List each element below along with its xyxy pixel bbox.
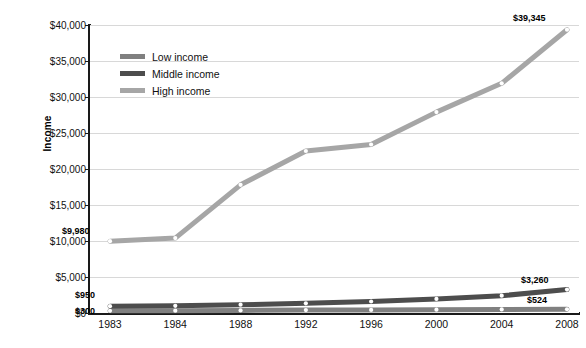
y-axis-tick-mark (85, 25, 90, 26)
point-value-label: $39,345 (513, 13, 546, 23)
y-axis-tick-mark (85, 277, 90, 278)
y-axis-tick-mark (85, 61, 90, 62)
legend-item-label: Middle income (152, 68, 220, 80)
y-axis-tick-mark (85, 133, 90, 134)
gridline (90, 205, 579, 206)
y-axis-tick-mark (85, 241, 90, 242)
legend-swatch-icon (120, 54, 145, 59)
point-value-label: $3,260 (521, 275, 549, 285)
legend-item-label: High income (152, 85, 210, 97)
point-value-label: $950 (75, 290, 95, 300)
legend-swatch-icon (120, 88, 145, 93)
chart-legend: Low incomeMiddle incomeHigh income (120, 49, 250, 100)
x-axis-tick-label: 2004 (472, 318, 532, 330)
x-axis-tick-label: 1988 (211, 318, 271, 330)
x-axis-tick-label: 1984 (145, 318, 205, 330)
y-axis-tick-label: $15,000 (24, 200, 86, 211)
x-axis-tick-label: 2000 (406, 318, 466, 330)
y-axis-tick-label: $10,000 (24, 236, 86, 247)
point-value-label: $524 (527, 295, 547, 305)
income-line-chart: Income $0$5,000$10,000$15,000$20,000$25,… (0, 0, 586, 348)
y-axis-tick-label: $40,000 (24, 20, 86, 31)
y-axis-tick-mark (85, 97, 90, 98)
gridline (90, 169, 579, 170)
x-axis-tick-label: 1983 (80, 318, 140, 330)
legend-item[interactable]: Low income (120, 49, 250, 64)
y-axis-tick-label: $30,000 (24, 92, 86, 103)
gridline (90, 277, 579, 278)
gridline (90, 241, 579, 242)
x-axis-tick-label: 1992 (276, 318, 336, 330)
y-axis-tick-mark (85, 169, 90, 170)
legend-item[interactable]: High income (120, 83, 250, 98)
y-axis-tick-label: $20,000 (24, 164, 86, 175)
y-axis-tick-mark (85, 313, 90, 314)
point-value-label: $9,980 (62, 226, 90, 236)
y-axis-tick-label: $5,000 (24, 272, 86, 283)
point-value-label: $300 (75, 306, 95, 316)
legend-swatch-icon (120, 71, 145, 76)
y-axis-tick-label: $25,000 (24, 128, 86, 139)
x-axis-tick-label: 2008 (537, 318, 586, 330)
gridline (90, 133, 579, 134)
y-axis-tick-label: $35,000 (24, 56, 86, 67)
y-axis-tick-mark (85, 205, 90, 206)
legend-item-label: Low income (152, 51, 208, 63)
x-axis-tick-label: 1996 (341, 318, 401, 330)
gridline (90, 25, 579, 26)
legend-item[interactable]: Middle income (120, 66, 250, 81)
